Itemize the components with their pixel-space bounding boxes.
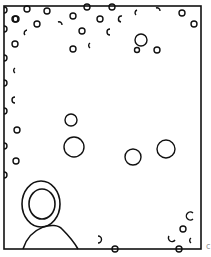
circle-mark (34, 21, 40, 27)
circles-drawing: c (0, 0, 211, 257)
circle-mark (135, 34, 147, 46)
circle-mark (70, 46, 76, 52)
circle-mark (154, 47, 160, 53)
circle-mark (13, 158, 19, 164)
circle-mark (24, 6, 30, 12)
circle-mark (84, 4, 90, 10)
arc-mark (190, 238, 191, 243)
arc-mark (107, 29, 110, 35)
circle-mark (12, 41, 18, 47)
arc-mark (89, 43, 90, 48)
circle-mark (191, 21, 197, 27)
circle-mark (157, 140, 175, 158)
circle-mark (70, 13, 76, 19)
arc-mark (12, 97, 15, 103)
arc-mark (118, 16, 122, 22)
circle-mark (179, 10, 185, 16)
circle-mark (125, 149, 141, 165)
circle-group (12, 4, 197, 252)
circle-mark (79, 28, 85, 34)
arc-group (4, 7, 193, 243)
corner-mark: c (206, 242, 210, 251)
dome-shape (23, 225, 78, 249)
circle-mark (135, 48, 140, 53)
circle-mark (65, 114, 77, 126)
arc-mark (58, 22, 62, 25)
arc-mark (24, 30, 27, 35)
circle-mark (109, 4, 115, 10)
circle-mark (180, 226, 186, 232)
circle-mark (44, 8, 50, 14)
circle-mark (97, 16, 103, 22)
arc-mark (98, 236, 102, 243)
circle-mark (14, 127, 20, 133)
arc-mark (186, 212, 193, 220)
arc-mark (135, 10, 137, 15)
arc-mark (14, 68, 15, 73)
frame-border (4, 6, 201, 249)
circle-mark (64, 137, 84, 157)
arc-mark (156, 8, 160, 11)
arc-mark (168, 236, 175, 242)
concentric-inner-ring (29, 189, 55, 219)
